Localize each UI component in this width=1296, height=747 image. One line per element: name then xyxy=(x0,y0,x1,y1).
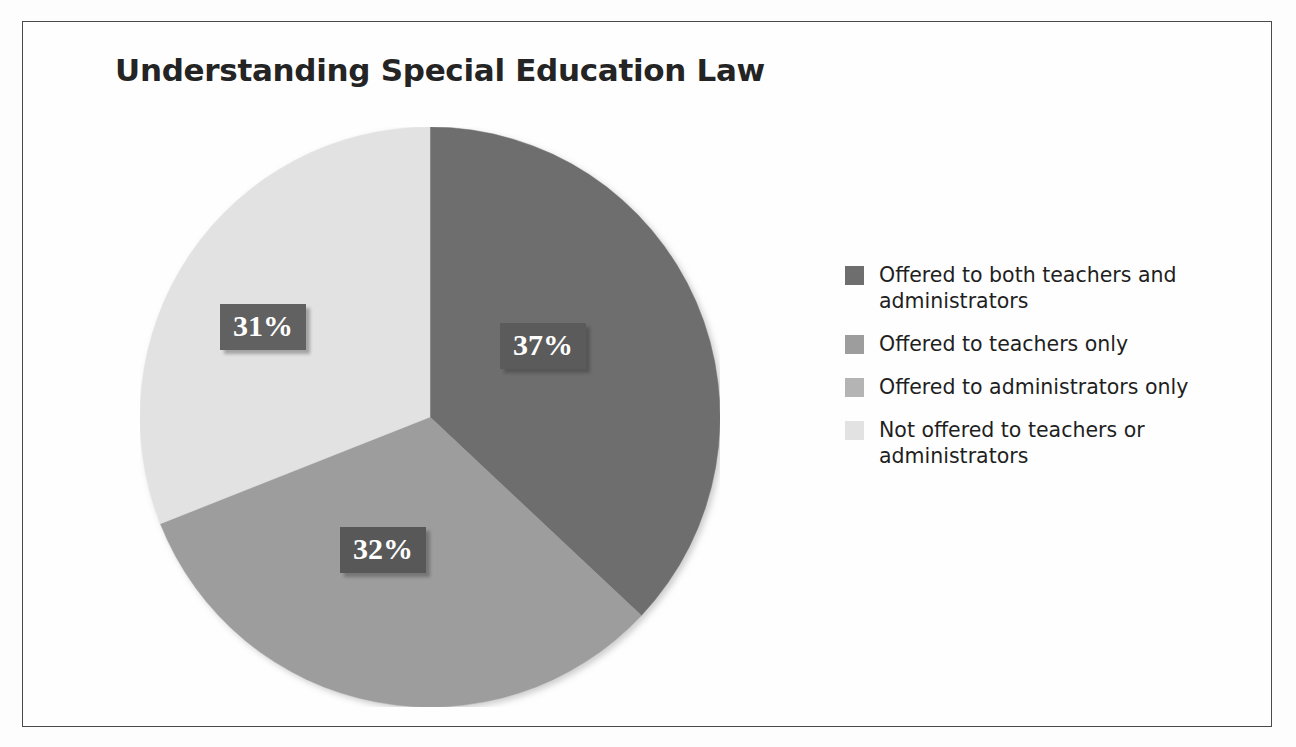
legend-item-offered-administrators-only[interactable]: Offered to administrators only xyxy=(845,374,1245,400)
pie-svg xyxy=(140,127,720,707)
legend-item-offered-teachers-only[interactable]: Offered to teachers only xyxy=(845,331,1245,357)
slice-value-label-not-offered: 31% xyxy=(220,304,306,350)
slice-value-label-offered-both: 37% xyxy=(500,323,586,369)
chart-title: Understanding Special Education Law xyxy=(0,52,880,88)
legend-item-label: Offered to teachers only xyxy=(879,331,1128,357)
legend-item-offered-both[interactable]: Offered to both teachers and administrat… xyxy=(845,262,1245,314)
legend-swatch-icon xyxy=(845,421,864,440)
legend-swatch-icon xyxy=(845,335,864,354)
legend-item-label: Offered to both teachers and administrat… xyxy=(879,262,1209,314)
legend-item-label: Not offered to teachers or administrator… xyxy=(879,417,1209,469)
slice-value-label-offered-teachers-only: 32% xyxy=(340,527,426,573)
legend-swatch-icon xyxy=(845,266,864,285)
pie-chart-figure: Understanding Special Education Law 37% … xyxy=(0,0,1296,747)
chart-legend: Offered to both teachers and administrat… xyxy=(845,262,1245,486)
legend-item-label: Offered to administrators only xyxy=(879,374,1188,400)
legend-swatch-icon xyxy=(845,378,864,397)
legend-item-not-offered[interactable]: Not offered to teachers or administrator… xyxy=(845,417,1245,469)
pie-graphic: 37% 32% 31% xyxy=(140,127,720,707)
